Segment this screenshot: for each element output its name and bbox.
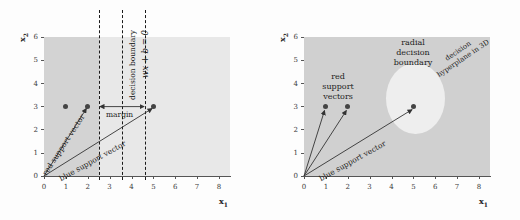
x-tick-label: 5	[145, 183, 161, 191]
x-axis-title-left: x1	[219, 196, 228, 208]
y-tick-label: 0	[22, 172, 38, 180]
y-tick-label: 0	[282, 172, 298, 180]
x-tick	[132, 176, 133, 179]
y-tick	[41, 106, 44, 107]
x-tick-label: 1	[318, 183, 334, 191]
y-tick-label: 2	[282, 126, 298, 134]
y-tick-label: 3	[282, 103, 298, 111]
x-tick	[413, 176, 414, 179]
red-support-vectors-line2: support	[312, 82, 364, 92]
x-tick-label: 2	[340, 183, 356, 191]
y-tick	[301, 83, 304, 84]
x-tick-label: 8	[211, 183, 227, 191]
x-tick-label: 7	[189, 183, 205, 191]
y-tick	[41, 60, 44, 61]
x-tick-label: 0	[36, 183, 52, 191]
radial-boundary-line1: radial	[384, 38, 442, 48]
x-tick-label: 1	[58, 183, 74, 191]
x-tick-label: 2	[80, 183, 96, 191]
panel-radial-svm: 0 1 2 3 4 5 6 7 8 0 1 2 3 4 5 6 x1 x2 re…	[260, 0, 520, 220]
x-tick-label: 5	[405, 183, 421, 191]
y-tick	[41, 129, 44, 130]
x-tick	[197, 176, 198, 179]
y-tick-label: 1	[282, 149, 298, 157]
x-tick-label: 0	[296, 183, 312, 191]
y-tick-label: 1	[22, 149, 38, 157]
margin-label: margin	[106, 110, 133, 119]
x-tick-label: 4	[124, 183, 140, 191]
svm-figure: 0 1 2 3 4 5 6 7 8 0 1 2 3 4 5 6 x1 x2 de…	[0, 0, 520, 220]
decision-equation-label: wx + b = 0	[141, 30, 150, 78]
y-tick	[41, 176, 44, 177]
x-tick	[219, 176, 220, 179]
x-tick	[153, 176, 154, 179]
x-tick-label: 7	[449, 183, 465, 191]
x-tick	[479, 176, 480, 179]
red-support-vectors-label: red support vectors	[312, 72, 364, 102]
y-tick	[41, 37, 44, 38]
y-tick-label: 4	[282, 80, 298, 88]
y-tick-label: 3	[22, 103, 38, 111]
x-tick	[110, 176, 111, 179]
panel-linear-svm: 0 1 2 3 4 5 6 7 8 0 1 2 3 4 5 6 x1 x2 de…	[0, 0, 260, 220]
x-tick	[44, 176, 45, 179]
y-tick	[41, 83, 44, 84]
x-tick	[175, 176, 176, 179]
x-tick	[348, 176, 349, 179]
x-tick	[435, 176, 436, 179]
y-tick-label: 4	[22, 80, 38, 88]
red-support-vectors-line3: vectors	[312, 92, 364, 102]
y-tick-label: 5	[282, 56, 298, 64]
y-tick	[41, 153, 44, 154]
x-tick	[304, 176, 305, 179]
x-tick-label: 8	[471, 183, 487, 191]
x-tick-label: 6	[427, 183, 443, 191]
x-axis-title-right: x1	[479, 196, 488, 208]
y-tick-label: 2	[22, 126, 38, 134]
x-tick	[392, 176, 393, 179]
y-tick	[301, 129, 304, 130]
x-tick-label: 3	[102, 183, 118, 191]
y-tick	[301, 106, 304, 107]
red-support-vectors-line1: red	[312, 72, 364, 82]
y-tick	[301, 176, 304, 177]
x-tick	[370, 176, 371, 179]
radial-boundary-line2: decision	[384, 48, 442, 58]
y-axis-title-right: x2	[277, 33, 289, 42]
x-tick-label: 3	[362, 183, 378, 191]
y-axis-title-left: x2	[17, 33, 29, 42]
x-tick	[457, 176, 458, 179]
y-tick	[301, 37, 304, 38]
x-tick	[88, 176, 89, 179]
y-tick-label: 5	[22, 56, 38, 64]
y-tick	[301, 153, 304, 154]
decision-boundary-label: decision boundary	[128, 30, 137, 100]
y-tick	[301, 60, 304, 61]
x-tick-label: 6	[167, 183, 183, 191]
x-tick-label: 4	[384, 183, 400, 191]
